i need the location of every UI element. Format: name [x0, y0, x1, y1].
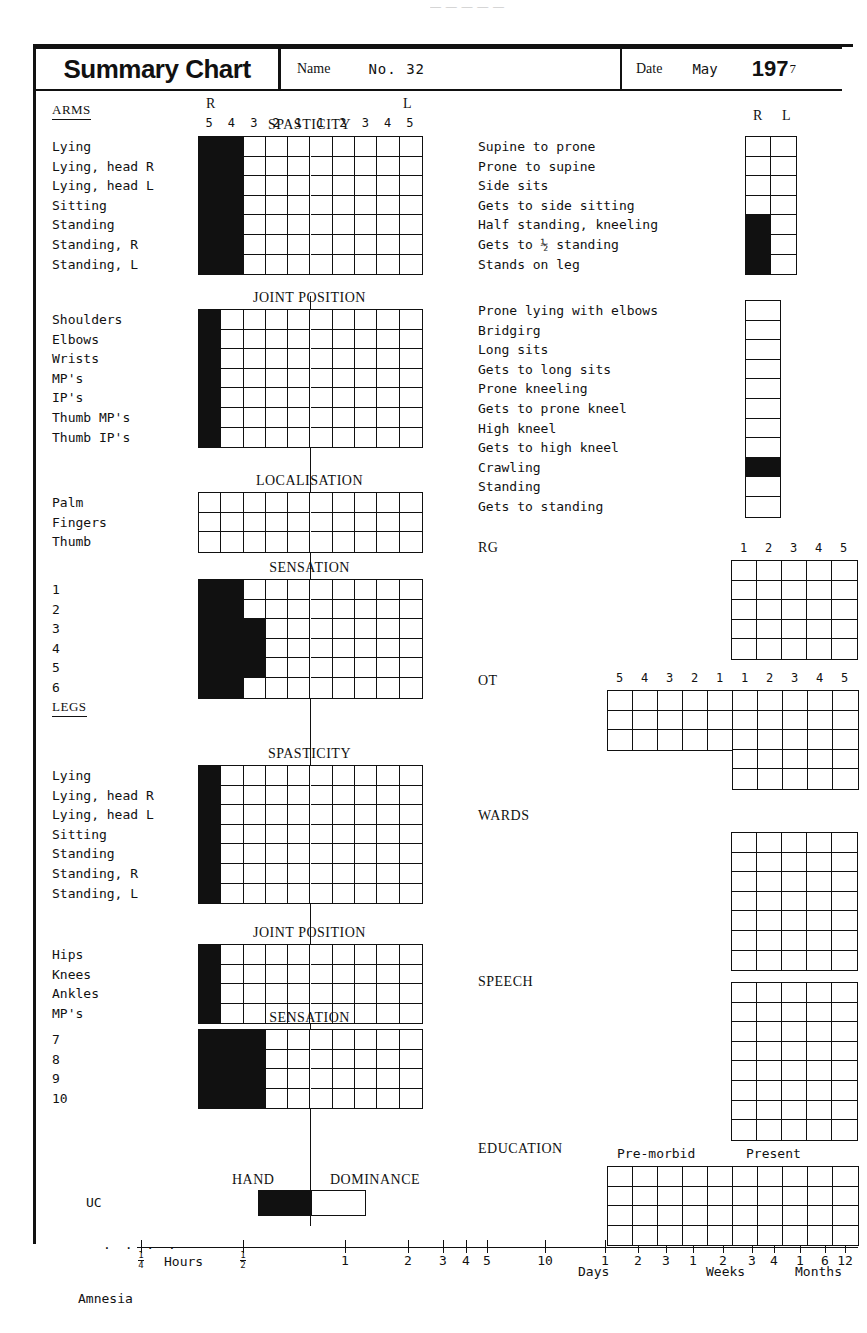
grid-cell — [746, 477, 780, 497]
grid-cell — [757, 581, 782, 601]
grid-cell — [733, 1187, 758, 1207]
grid-cell — [244, 580, 266, 600]
scale-number: 3 — [781, 541, 806, 555]
grid-cell — [771, 137, 796, 157]
grid-cell — [757, 1101, 782, 1121]
grid-cell — [732, 872, 757, 892]
grid-cell — [244, 786, 266, 806]
grid-cell — [221, 965, 243, 985]
grid-cell — [833, 769, 858, 789]
grid-cell — [832, 911, 857, 931]
scale-number: 5 — [607, 671, 632, 685]
grid-cell — [355, 864, 377, 884]
grid-cell — [355, 786, 377, 806]
grid-cell — [633, 1167, 658, 1187]
grid-cell — [807, 833, 832, 853]
grid-cell — [221, 137, 243, 157]
grid-ot-upper — [607, 690, 859, 751]
grid-cell — [355, 1069, 377, 1089]
grid-cell — [757, 639, 782, 659]
grid-cell — [311, 349, 333, 369]
grid-cell — [199, 965, 221, 985]
grid-cell — [832, 1101, 857, 1121]
date-cell[interactable]: Date May 197 7 — [622, 47, 842, 91]
grid-mobility-single — [745, 300, 781, 518]
grid-cell — [757, 1022, 782, 1042]
grid-cell — [311, 196, 333, 216]
scale-number: 4 — [807, 671, 832, 685]
grid-cell — [266, 235, 288, 255]
row-label: Side sits — [478, 176, 548, 196]
grid-cell — [244, 1069, 266, 1089]
grid-cell — [377, 864, 399, 884]
grid-cell — [355, 984, 377, 1004]
name-cell[interactable]: Name No. 32 — [281, 47, 622, 91]
grid-cell — [400, 428, 422, 448]
grid-cell — [400, 658, 422, 678]
name-label: Name — [297, 61, 330, 77]
grid-cell — [333, 428, 355, 448]
summary-chart-sheet: — — — — — Summary Chart Name No. 32 Date… — [0, 0, 867, 1333]
grid-cell — [757, 561, 782, 581]
grid-cell — [833, 1226, 858, 1246]
grid-cell — [288, 786, 310, 806]
grid-cell — [333, 965, 355, 985]
grid-cell — [758, 1226, 783, 1246]
scale-number: 3 — [243, 116, 265, 130]
grid-cell — [244, 369, 266, 389]
grid-cell — [333, 1030, 355, 1050]
grid-cell — [199, 678, 221, 698]
row-label: Gets to high kneel — [478, 438, 619, 458]
grid-cell — [288, 825, 310, 845]
grid-cell — [832, 931, 857, 951]
grid-cell — [333, 600, 355, 620]
grid-cell — [377, 1089, 399, 1109]
grid-cell — [807, 1003, 832, 1023]
grid-cell — [377, 157, 399, 177]
grid-cell — [288, 388, 310, 408]
grid-cell — [400, 945, 422, 965]
grid-cell — [377, 1030, 399, 1050]
row-label: Ankles — [52, 984, 99, 1004]
grid-cell — [333, 844, 355, 864]
grid-cell — [782, 1061, 807, 1081]
grid-cell — [807, 620, 832, 640]
grid-cell — [708, 1167, 733, 1187]
grid-cell — [782, 620, 807, 640]
grid-cell — [832, 1022, 857, 1042]
grid-cell — [608, 1226, 633, 1246]
scale-number: 4 — [632, 671, 657, 685]
grid-cell — [288, 864, 310, 884]
grid-cell — [311, 513, 333, 533]
grid-cell — [746, 438, 780, 458]
grid-cell — [311, 388, 333, 408]
scale-number: 3 — [354, 116, 376, 130]
grid-cell — [199, 255, 221, 275]
row-label: 8 — [52, 1050, 60, 1070]
grid-cell — [355, 766, 377, 786]
grid-ot-lower — [732, 749, 859, 790]
row-label: Knees — [52, 965, 91, 985]
grid-cell — [355, 532, 377, 552]
grid-cell — [288, 945, 310, 965]
grid-cell — [311, 678, 333, 698]
timeline-tick-label: 2 — [629, 1253, 647, 1268]
grid-cell — [199, 844, 221, 864]
grid-cell — [244, 513, 266, 533]
grid-cell — [333, 825, 355, 845]
grid-cell — [377, 1069, 399, 1089]
grid-cell — [355, 965, 377, 985]
grid-cell — [377, 215, 399, 235]
grid-cell — [758, 730, 783, 750]
hand-dominance-bar[interactable] — [258, 1190, 366, 1216]
grid-cell — [400, 805, 422, 825]
grid-cell — [199, 658, 221, 678]
grid-cell — [746, 157, 771, 177]
grid-cell — [288, 766, 310, 786]
grid-cell — [333, 493, 355, 513]
grid-cell — [400, 176, 422, 196]
row-label: Gets to ½ standing — [478, 235, 619, 255]
grid-cell — [783, 750, 808, 770]
grid-cell — [288, 255, 310, 275]
grid-cell — [266, 805, 288, 825]
